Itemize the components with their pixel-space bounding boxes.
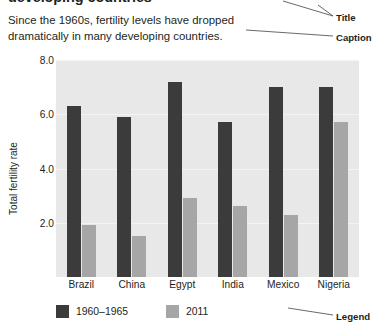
bar — [67, 106, 81, 277]
x-axis-category-labels: BrazilChinaEgyptIndiaMexicoNigeria — [56, 279, 359, 290]
y-axis-tick-label: 2.0 — [40, 217, 54, 228]
bar — [319, 87, 333, 277]
bar — [269, 87, 283, 277]
y-axis-tick-label: 8.0 — [40, 55, 54, 66]
chart-legend: 1960–19652011 — [56, 305, 246, 318]
legend-item: 1960–1965 — [56, 305, 128, 318]
bar — [117, 117, 131, 277]
annotation-title: Title — [336, 12, 356, 23]
y-axis-tick-label: 6.0 — [40, 109, 54, 120]
bar — [334, 122, 348, 277]
chart-caption: Since the 1960s, fertility levels have d… — [8, 13, 248, 44]
bar-group — [56, 60, 107, 277]
plot-area — [56, 60, 359, 277]
x-axis-category-label: China — [107, 279, 158, 290]
legend-label: 1960–1965 — [76, 306, 128, 317]
bar — [218, 122, 232, 277]
legend-swatch — [166, 305, 179, 318]
bar — [132, 236, 146, 277]
bar-groups — [56, 60, 359, 277]
bar — [82, 225, 96, 277]
bar-group — [309, 60, 360, 277]
legend-label: 2011 — [186, 306, 208, 317]
x-axis-category-label: Nigeria — [309, 279, 360, 290]
bar — [168, 82, 182, 277]
bar-group — [107, 60, 158, 277]
x-axis-category-label: India — [208, 279, 259, 290]
y-axis-ticks: 2.04.06.08.0 — [18, 55, 54, 277]
x-axis-category-label: Brazil — [56, 279, 107, 290]
annotation-caption: Caption — [336, 32, 372, 43]
annotation-legend: Legend — [336, 311, 370, 322]
bar — [233, 206, 247, 277]
page-title: developing countries — [8, 0, 152, 5]
bar — [183, 198, 197, 277]
bar-group — [208, 60, 259, 277]
bar-group — [157, 60, 208, 277]
x-axis-category-label: Mexico — [258, 279, 309, 290]
bar — [284, 215, 298, 277]
y-axis-tick-label: 4.0 — [40, 163, 54, 174]
legend-item: 2011 — [166, 305, 208, 318]
bar-group — [258, 60, 309, 277]
y-axis-label: Total fertility rate — [8, 129, 19, 229]
bar-chart: Total fertility rate 2.04.06.08.0 Brazil… — [0, 55, 385, 305]
legend-swatch — [56, 305, 69, 318]
x-axis-category-label: Egypt — [157, 279, 208, 290]
